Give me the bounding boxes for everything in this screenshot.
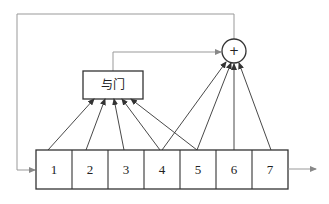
and-gate-label: 与门 [101,77,125,92]
register-cell-2: 2 [87,162,94,177]
and-gate-taps [48,99,197,150]
register-cell-6: 6 [231,162,238,177]
shift-register: 1 2 3 4 5 6 7 [36,150,288,189]
plus-symbol: + [229,44,239,58]
register-cell-3: 3 [123,162,130,177]
diagram-canvas: 与门 + 1 2 3 4 5 6 7 [0,0,329,204]
xor-node: + [222,39,246,63]
register-cell-7: 7 [267,162,274,177]
register-cell-4: 4 [159,162,166,177]
register-cell-1: 1 [51,162,58,177]
and-gate-output-line [113,52,221,71]
xor-taps [162,62,271,150]
and-gate: 与门 [83,71,143,99]
register-cell-5: 5 [195,162,202,177]
